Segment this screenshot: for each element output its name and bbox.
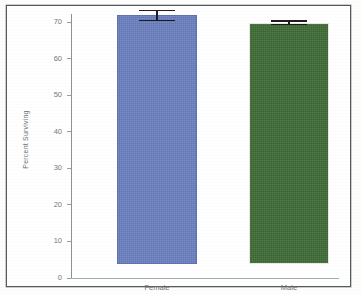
y-axis-tick: 0 <box>7 273 71 283</box>
x-axis-label-male: Male <box>249 283 329 292</box>
chart-figure-frame: Percent Surviving 010203040506070 Female… <box>6 5 351 287</box>
y-axis-tick-label: 20 <box>54 200 62 210</box>
y-axis-tick-mark <box>67 241 71 242</box>
y-axis-tick-label: 60 <box>54 54 62 64</box>
y-axis-tick: 70 <box>7 17 71 27</box>
y-axis-tick-label: 10 <box>54 236 62 246</box>
y-axis-tick-mark <box>67 58 71 59</box>
y-axis-line <box>71 14 72 279</box>
bar-group <box>117 15 197 264</box>
y-axis-tick: 30 <box>7 163 71 173</box>
y-axis-tick: 20 <box>7 200 71 210</box>
y-axis-tick-label: 30 <box>54 163 62 173</box>
bar-male <box>249 23 329 264</box>
y-axis-tick: 10 <box>7 236 71 246</box>
error-bar-male <box>271 20 307 24</box>
x-axis-line <box>71 278 339 279</box>
scanned-figure-page: Percent Surviving 010203040506070 Female… <box>0 0 361 294</box>
error-bar-female <box>139 10 175 21</box>
y-axis-tick: 60 <box>7 54 71 64</box>
x-axis-label-female: Female <box>117 283 197 292</box>
y-axis-tick-mark <box>67 131 71 132</box>
y-axis-tick-mark <box>67 278 71 279</box>
y-axis-tick-label: 40 <box>54 127 62 137</box>
error-bar-cap-bottom <box>271 24 307 25</box>
y-axis-tick: 40 <box>7 127 71 137</box>
y-axis-tick-label: 0 <box>58 273 62 283</box>
y-axis-tick-mark <box>67 204 71 205</box>
y-axis-tick-mark <box>67 22 71 23</box>
y-axis-tick-label: 50 <box>54 90 62 100</box>
error-bar-cap-top <box>271 20 307 21</box>
plot-area: Percent Surviving 010203040506070 Female… <box>7 6 350 286</box>
y-axis-tick: 50 <box>7 90 71 100</box>
y-axis-tick-mark <box>67 168 71 169</box>
y-axis-tick-label: 70 <box>54 17 62 27</box>
error-bar-cap-top <box>139 10 175 11</box>
bar-female <box>117 15 197 264</box>
bar-group <box>249 23 329 264</box>
error-bar-cap-bottom <box>139 20 175 21</box>
y-axis-tick-mark <box>67 95 71 96</box>
